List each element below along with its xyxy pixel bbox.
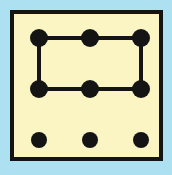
dot-r2c3 bbox=[132, 80, 150, 98]
dot-r2c2 bbox=[81, 80, 99, 98]
figure-container: Nine-dot grid with rectangle connecting … bbox=[0, 0, 172, 175]
dot-r2c1 bbox=[30, 80, 48, 98]
dot-r3c1 bbox=[31, 132, 47, 148]
dot-r3c2 bbox=[82, 132, 98, 148]
dot-r3c3 bbox=[133, 132, 149, 148]
dot-r1c2 bbox=[81, 29, 99, 47]
dot-r1c3 bbox=[132, 29, 150, 47]
dot-r1c1 bbox=[30, 29, 48, 47]
dot-grid-diagram bbox=[0, 0, 172, 175]
